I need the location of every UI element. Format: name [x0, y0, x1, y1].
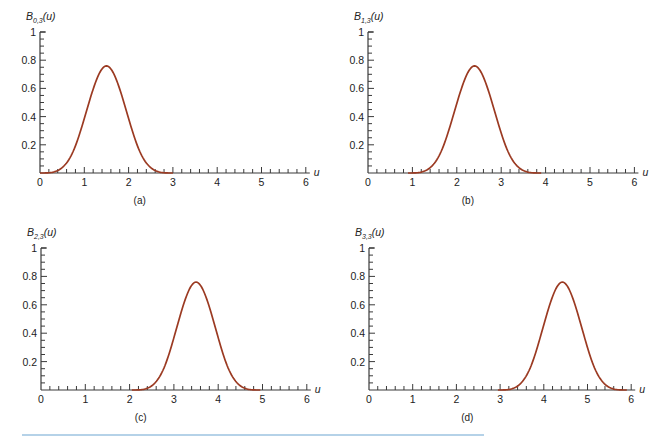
- panel-caption: (d): [461, 412, 473, 423]
- x-tick-label: 1: [409, 176, 415, 188]
- panel-caption: (a): [134, 195, 146, 206]
- y-tick-label: 0.2: [22, 356, 37, 368]
- x-tick-label: 3: [170, 176, 176, 188]
- y-tick-label: 0.6: [21, 82, 36, 94]
- y-tick-label: 0.6: [350, 299, 365, 311]
- x-tick-label: 2: [453, 393, 459, 405]
- panel-caption: (b): [462, 195, 474, 206]
- y-tick-label: 0.6: [349, 82, 364, 94]
- panel-caption: (c): [135, 412, 147, 423]
- x-tick-label: 4: [214, 176, 220, 188]
- y-tick-label: 0.8: [350, 270, 365, 282]
- panel-a: 01234560.20.40.60.81uB0,3(u)(a): [21, 10, 319, 206]
- basis-function-curve: [498, 282, 627, 390]
- x-tick-label: 3: [171, 393, 177, 405]
- x-tick-label: 3: [497, 393, 503, 405]
- x-tick-label: 2: [127, 393, 133, 405]
- y-tick-label: 0.8: [22, 270, 37, 282]
- x-tick-label: 1: [81, 176, 87, 188]
- x-tick-label: 6: [628, 393, 634, 405]
- x-tick-label: 0: [365, 176, 371, 188]
- x-tick-label: 1: [82, 393, 88, 405]
- y-tick-label: 0.8: [349, 54, 364, 66]
- y-axis-label: B0,3(u): [26, 10, 56, 24]
- x-tick-label: 5: [259, 176, 265, 188]
- y-axis-label: B2,3(u): [27, 226, 57, 240]
- b-spline-figure: 01234560.20.40.60.81uB0,3(u)(a) 01234560…: [0, 0, 665, 444]
- x-tick-label: 4: [543, 176, 549, 188]
- y-tick-label: 1: [30, 26, 36, 38]
- y-tick-label: 0.6: [22, 299, 37, 311]
- x-tick-label: 4: [541, 393, 547, 405]
- y-tick-label: 0.4: [22, 327, 37, 339]
- x-tick-label: 6: [304, 393, 310, 405]
- y-tick-label: 0.4: [21, 111, 36, 123]
- panel-d: 01234560.20.40.60.81uB3,3(u)(d): [350, 226, 645, 423]
- basis-function-curve: [408, 66, 541, 173]
- x-tick-label: 0: [38, 393, 44, 405]
- y-tick-label: 0.2: [21, 139, 36, 151]
- panel-b: 01234560.20.40.60.81uB1,3(u)(b): [349, 10, 648, 206]
- y-tick-label: 0.8: [21, 54, 36, 66]
- x-tick-label: 2: [454, 176, 460, 188]
- panel-c: 01234560.20.40.60.81uB2,3(u)(c): [22, 226, 320, 423]
- x-tick-label: 0: [37, 176, 43, 188]
- y-tick-label: 0.2: [350, 356, 365, 368]
- y-tick-label: 0.2: [349, 139, 364, 151]
- x-tick-label: 0: [366, 393, 372, 405]
- y-tick-label: 1: [31, 242, 37, 254]
- x-axis-label: u: [639, 383, 645, 395]
- x-axis-label: u: [315, 383, 321, 395]
- y-axis-label: B3,3(u): [355, 226, 385, 240]
- x-tick-label: 2: [126, 176, 132, 188]
- x-tick-label: 1: [410, 393, 416, 405]
- x-tick-label: 6: [303, 176, 309, 188]
- x-tick-label: 3: [498, 176, 504, 188]
- y-axis-label: B1,3(u): [354, 10, 384, 24]
- x-tick-label: 5: [587, 176, 593, 188]
- x-tick-label: 5: [260, 393, 266, 405]
- y-tick-label: 0.4: [350, 327, 365, 339]
- basis-function-curve: [132, 282, 260, 390]
- basis-function-curve: [40, 66, 173, 173]
- x-tick-label: 5: [585, 393, 591, 405]
- x-axis-label: u: [314, 166, 320, 178]
- x-axis-label: u: [642, 166, 648, 178]
- x-tick-label: 6: [631, 176, 637, 188]
- y-tick-label: 1: [358, 26, 364, 38]
- y-tick-label: 0.4: [349, 111, 364, 123]
- x-tick-label: 4: [215, 393, 221, 405]
- y-tick-label: 1: [359, 242, 365, 254]
